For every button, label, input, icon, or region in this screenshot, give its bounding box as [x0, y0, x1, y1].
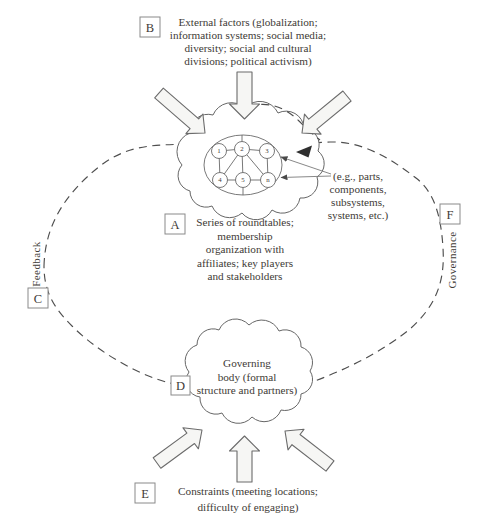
roundtables-line-5: and stakeholders [208, 270, 283, 282]
eg-parts-line-2: components, [330, 183, 387, 195]
external-factors-line-2: information systems; social media; [170, 29, 326, 41]
node-4-label: 4 [218, 176, 222, 183]
node-2-label: 2 [240, 145, 244, 152]
label-c: C [34, 292, 42, 306]
feedback-side-label: Feedback [30, 241, 42, 286]
node-n-label: n [266, 176, 270, 183]
constraints-line-2: difficulty of engaging) [197, 501, 298, 514]
eg-parts-line-3: subsystems, [331, 196, 385, 208]
constraint-arrows [153, 428, 334, 482]
node-3-label: 3 [265, 147, 269, 154]
roundtables-line-2: membership [217, 230, 273, 242]
governing-body-line-2: body (formal [218, 371, 277, 384]
system-of-systems-diagram: 1 2 3 4 5 n B A C D E [0, 0, 484, 529]
label-f: F [447, 208, 454, 222]
label-e: E [141, 487, 149, 501]
diagram-canvas: 1 2 3 4 5 n B A C D E [0, 0, 484, 529]
external-factors-line-3: diversity; social and cultural [184, 42, 311, 54]
eg-parts-text: (e.g., parts, components, subsystems, sy… [328, 170, 389, 222]
bottom-left-block-arrow [153, 428, 202, 468]
external-factors-line-4: divisions; political activism) [184, 55, 312, 68]
label-a: A [170, 218, 179, 232]
node-5-label: 5 [241, 176, 245, 183]
node-1-label: 1 [217, 147, 220, 154]
top-left-block-arrow [155, 88, 205, 134]
constraints-text: Constraints (meeting locations; difficul… [178, 485, 318, 514]
governing-body-line-3: structure and partners) [197, 384, 298, 397]
roundtables-line-3: organization with [206, 243, 285, 255]
bottom-right-block-arrow [285, 429, 334, 471]
roundtables-line-4: affiliates; key players [197, 257, 293, 269]
bottom-middle-block-arrow [230, 436, 260, 482]
governing-body-line-1: Governing [223, 357, 271, 369]
label-d: D [176, 379, 185, 393]
top-right-block-arrow [302, 91, 351, 134]
governance-side-label: Governance [446, 231, 458, 288]
roundtables-text: Series of roundtables; membership organi… [196, 216, 294, 282]
label-b: B [146, 21, 154, 35]
constraints-line-1: Constraints (meeting locations; [178, 485, 318, 498]
external-factors-line-1: External factors (globalization; [178, 16, 317, 29]
external-factors-text: External factors (globalization; informa… [170, 16, 326, 68]
eg-parts-line-4: systems, etc.) [328, 209, 389, 222]
eg-parts-line-1: (e.g., parts, [333, 170, 383, 183]
roundtables-line-1: Series of roundtables; [196, 216, 294, 228]
